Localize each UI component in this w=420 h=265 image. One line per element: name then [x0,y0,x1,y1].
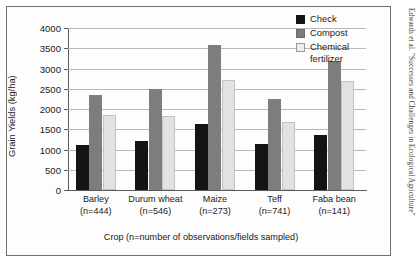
bar-check [255,144,268,190]
bar-chemical-fertilizer [222,80,235,190]
y-axis-tick-label: 3000 [40,63,61,74]
y-axis-title: Grain Yields (kg/ha) [7,36,21,196]
legend-label: Chemicalfertilizer [310,41,349,64]
category-name: Faba bean [312,194,355,204]
bar-check [314,135,327,190]
x-axis-title: Crop (n=number of observations/fields sa… [36,232,366,242]
legend-item: Check [296,13,388,25]
bar-group [135,28,175,190]
legend: CheckCompostChemicalfertilizer [296,13,388,67]
bar-chemical-fertilizer [162,116,175,190]
y-axis-tick-label: 2500 [40,83,61,94]
bar-compost [268,99,281,190]
legend-label: Compost [310,27,348,39]
bar-chemical-fertilizer [103,115,116,190]
y-axis-tick-mark [64,109,68,110]
bar-compost [89,95,102,190]
y-axis-tick-label: 2000 [40,104,61,115]
y-axis-tick-mark [64,28,68,29]
bar-chemical-fertilizer [341,81,354,190]
y-axis-tick-mark [64,129,68,130]
x-axis-line [68,190,367,191]
bar-group [255,28,295,190]
bar-compost [149,89,162,190]
y-axis-tick-mark [64,190,68,191]
bar-group [76,28,116,190]
bar-compost [328,61,341,190]
y-axis-tick-label: 4000 [40,23,61,34]
y-axis-tick-mark [64,150,68,151]
legend-item: Chemicalfertilizer [296,41,388,64]
legend-swatch-check [296,15,305,24]
y-axis-tick-label: 1500 [40,124,61,135]
y-axis-tick-label: 1000 [40,144,61,155]
bar-group [195,28,235,190]
bar-check [135,141,148,190]
legend-item: Compost [296,27,388,39]
bar-chemical-fertilizer [282,122,295,190]
category-name: Maize [203,194,227,204]
legend-swatch-chemical [296,43,305,52]
y-axis-tick-mark [64,170,68,171]
y-axis-tick-mark [64,69,68,70]
category-name: Teff [267,194,282,204]
bar-compost [208,45,221,190]
category-observation-count: (n=141) [294,206,374,218]
y-axis-tick-mark [64,89,68,90]
legend-swatch-compost [296,29,305,38]
bar-check [195,124,208,190]
y-axis-tick-mark [64,48,68,49]
y-axis-tick-label: 500 [45,164,61,175]
category-label: Faba bean(n=141) [294,194,374,217]
bar-check [76,145,89,190]
category-name: Barley [83,194,109,204]
legend-label: Check [310,13,337,25]
running-head: Edwards et al. "Successes and Challenges… [403,8,419,248]
y-axis-tick-label: 3500 [40,43,61,54]
